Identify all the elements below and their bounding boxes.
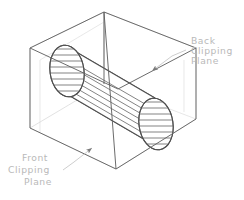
front-label-line-1: Front	[22, 152, 48, 163]
front-label-line-3: Plane	[24, 176, 52, 187]
back-label-line-3: Plane	[191, 55, 219, 66]
front-clipping-plane-label: Front Clipping Plane	[8, 152, 52, 187]
leader-front-clipping-plane	[63, 148, 92, 170]
leader-back-clipping-plane	[152, 50, 186, 71]
clipping-plane-diagram: Back Clipping Plane Front Clipping Plane	[0, 0, 244, 200]
edge-top-right	[104, 12, 196, 48]
edge-top-left	[30, 12, 104, 48]
front-label-line-2: Clipping	[8, 164, 50, 175]
hatched-cylinder	[44, 43, 181, 152]
back-clipping-plane-label: Back Clipping Plane	[191, 35, 233, 66]
diagram-canvas: Back Clipping Plane Front Clipping Plane	[0, 0, 244, 200]
